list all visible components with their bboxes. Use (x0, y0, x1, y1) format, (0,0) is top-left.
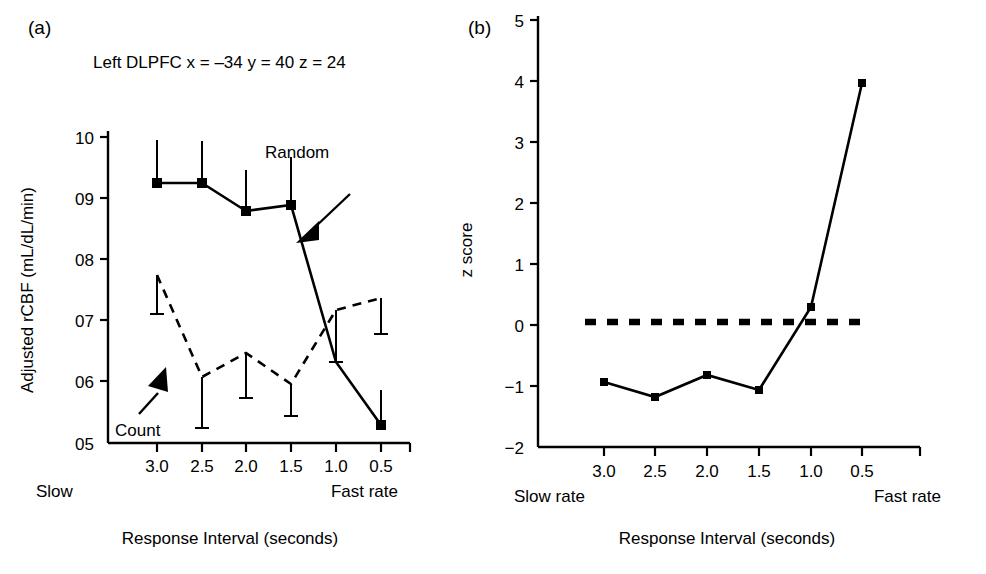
panel-b-ytick-4: 1 (515, 256, 524, 275)
panel-a-y-ticks: 10 09 08 07 06 05 (75, 129, 108, 454)
panel-b-x-ticks: 3.0 2.5 2.0 1.5 1.0 0.5 (592, 447, 920, 481)
panel-a-xtick-4: 1.0 (324, 457, 348, 476)
panel-b: (b) z score 5 4 3 2 1 0 −1 −2 (457, 12, 941, 548)
panel-b-slow-label: Slow rate (514, 487, 585, 506)
panel-a-slow-label: Slow (36, 482, 74, 501)
panel-a-y-axis-label: Adjusted rCBF (mL/dL/min) (18, 187, 37, 393)
count-arrow-head-icon (148, 367, 168, 392)
panel-a-ytick-1: 09 (75, 190, 94, 209)
panel-b-label: (b) (468, 17, 491, 38)
panel-a-x-axis-label: Response Interval (seconds) (122, 529, 338, 548)
panel-b-x-axis-label: Response Interval (seconds) (619, 529, 835, 548)
panel-a-xtick-0: 3.0 (145, 457, 169, 476)
panel-a-ytick-2: 08 (75, 251, 94, 270)
panel-a-xtick-5: 0.5 (369, 457, 393, 476)
panel-a-label: (a) (28, 17, 51, 38)
panel-a-xtick-3: 1.5 (279, 457, 303, 476)
panel-b-xtick-3: 1.5 (747, 462, 771, 481)
figure-svg: (a) Left DLPFC x = –34 y = 40 z = 24 Adj… (0, 0, 986, 574)
panel-a-ytick-3: 07 (75, 312, 94, 331)
panel-b-xtick-5: 0.5 (850, 462, 874, 481)
panel-b-ytick-6: −1 (505, 378, 524, 397)
panel-a-random-annotation: Random (265, 143, 329, 162)
panel-a-ytick-4: 06 (75, 373, 94, 392)
panel-a-count-errorbars (150, 275, 388, 428)
panel-a-count-series (157, 275, 381, 384)
panel-b-ytick-7: −2 (505, 439, 524, 458)
panel-a-count-annotation: Count (115, 421, 161, 440)
panel-b-xtick-1: 2.5 (643, 462, 667, 481)
panel-a-title: Left DLPFC x = –34 y = 40 z = 24 (93, 53, 346, 72)
panel-b-fast-label: Fast rate (874, 487, 941, 506)
panel-b-zscore-series (604, 83, 862, 397)
count-arrow-shaft (139, 393, 158, 414)
panel-b-xtick-4: 1.0 (799, 462, 823, 481)
panel-a-random-series (157, 183, 381, 425)
panel-b-ytick-0: 5 (515, 12, 524, 31)
panel-a-xtick-1: 2.5 (190, 457, 214, 476)
panel-a: (a) Left DLPFC x = –34 y = 40 z = 24 Adj… (18, 17, 410, 548)
panel-b-xtick-0: 3.0 (592, 462, 616, 481)
panel-b-y-ticks: 5 4 3 2 1 0 −1 −2 (505, 12, 538, 458)
panel-a-ytick-5: 05 (75, 435, 94, 454)
panel-b-ytick-2: 3 (515, 134, 524, 153)
panel-a-fast-label: Fast rate (331, 482, 398, 501)
panel-b-ytick-5: 0 (515, 317, 524, 336)
panel-b-y-axis-label: z score (457, 223, 476, 278)
panel-b-ytick-1: 4 (515, 73, 524, 92)
panel-a-ytick-0: 10 (75, 129, 94, 148)
figure-container: (a) Left DLPFC x = –34 y = 40 z = 24 Adj… (0, 0, 986, 574)
panel-b-ytick-3: 2 (515, 195, 524, 214)
panel-a-x-ticks: 3.0 2.5 2.0 1.5 1.0 0.5 (145, 443, 410, 476)
panel-a-xtick-2: 2.0 (234, 457, 258, 476)
panel-b-xtick-2: 2.0 (695, 462, 719, 481)
panel-a-random-markers (152, 178, 386, 430)
